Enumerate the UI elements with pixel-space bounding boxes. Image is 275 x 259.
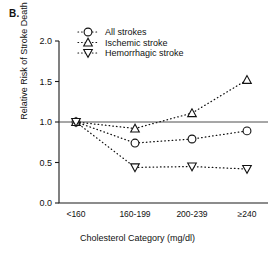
legend-label: Hemorrhagic stroke bbox=[105, 48, 184, 58]
series-3 bbox=[72, 118, 252, 173]
series-line bbox=[76, 80, 247, 129]
data-point-marker bbox=[243, 165, 252, 173]
y-axis-tick-label: 0.5 bbox=[39, 158, 52, 168]
y-axis-tick-label: 1.0 bbox=[39, 117, 52, 127]
stroke-risk-figure: B. Relative Risk of Stroke Death Cholest… bbox=[0, 0, 275, 259]
x-axis-tick-label: ≥240 bbox=[238, 209, 257, 219]
data-point-marker bbox=[131, 139, 139, 147]
legend-item: All strokes bbox=[78, 27, 147, 37]
x-axis-tick-label: <160 bbox=[66, 209, 85, 219]
series-line bbox=[76, 122, 247, 169]
data-point-marker bbox=[243, 127, 251, 135]
y-axis-tick-label: 2.0 bbox=[39, 36, 52, 46]
circle-open-icon bbox=[84, 28, 92, 36]
legend-item: Ischemic stroke bbox=[78, 38, 168, 48]
y-axis-tick-label: 1.5 bbox=[39, 77, 52, 87]
chart-legend: All strokesIschemic strokeHemorrhagic st… bbox=[78, 27, 184, 58]
chart-plot-area: 0.00.51.01.52.0<160160-199200-239≥240All… bbox=[0, 0, 275, 259]
x-axis-tick-label: 200-239 bbox=[176, 209, 207, 219]
data-point-marker bbox=[243, 76, 252, 84]
y-axis-tick-label: 0.0 bbox=[39, 198, 52, 208]
legend-label: Ischemic stroke bbox=[105, 38, 168, 48]
data-point-marker bbox=[188, 163, 197, 171]
legend-item: Hemorrhagic stroke bbox=[78, 48, 184, 58]
x-axis-tick-label: 160-199 bbox=[119, 209, 150, 219]
series-2 bbox=[72, 76, 252, 132]
legend-label: All strokes bbox=[105, 27, 147, 37]
data-point-marker bbox=[188, 135, 196, 143]
data-point-marker bbox=[188, 109, 197, 117]
